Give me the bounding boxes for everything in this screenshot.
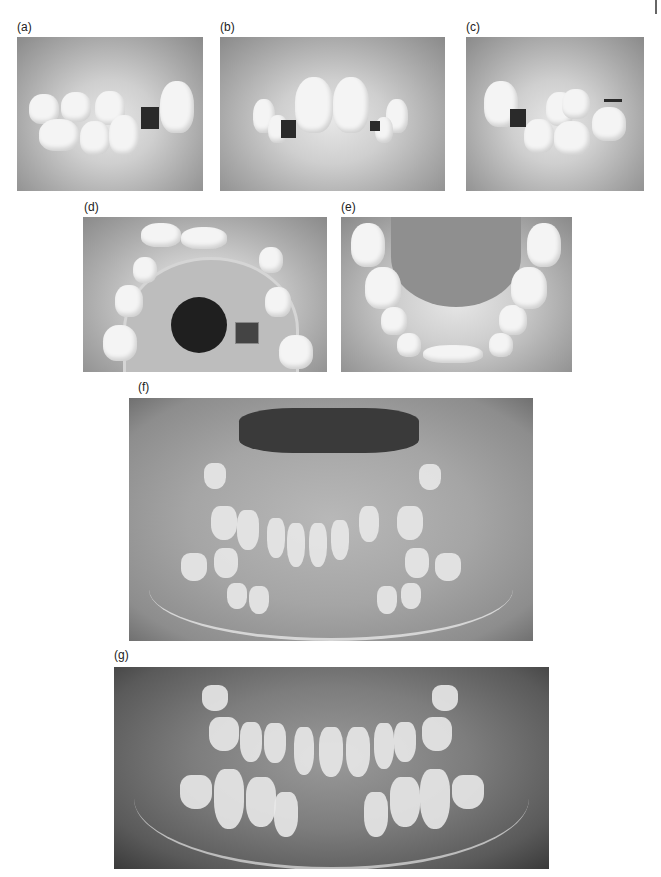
nasal-cavity — [239, 408, 419, 453]
panel-label-d: (d) — [84, 200, 99, 214]
panel-label-f: (f) — [138, 380, 149, 394]
panel-e-mandibular-occlusal — [341, 217, 572, 372]
panel-f-panoramic-radiograph — [129, 398, 533, 641]
expansion-screw — [235, 322, 259, 344]
panel-label-a: (a) — [17, 20, 32, 34]
panel-c-intraoral-left — [466, 37, 644, 191]
mandible-outline — [149, 538, 513, 641]
appliance-logo — [171, 297, 227, 353]
page-edge-mark — [655, 0, 657, 14]
panel-g-panoramic-radiograph — [114, 667, 549, 869]
panel-label-b: (b) — [220, 20, 235, 34]
panel-label-c: (c) — [466, 20, 480, 34]
panel-label-g: (g) — [114, 648, 129, 662]
panel-a-intraoral-right — [17, 37, 203, 191]
panel-d-maxillary-occlusal — [83, 217, 327, 372]
panel-b-intraoral-frontal — [220, 37, 445, 191]
panel-label-e: (e) — [341, 200, 356, 214]
tongue — [391, 217, 521, 307]
